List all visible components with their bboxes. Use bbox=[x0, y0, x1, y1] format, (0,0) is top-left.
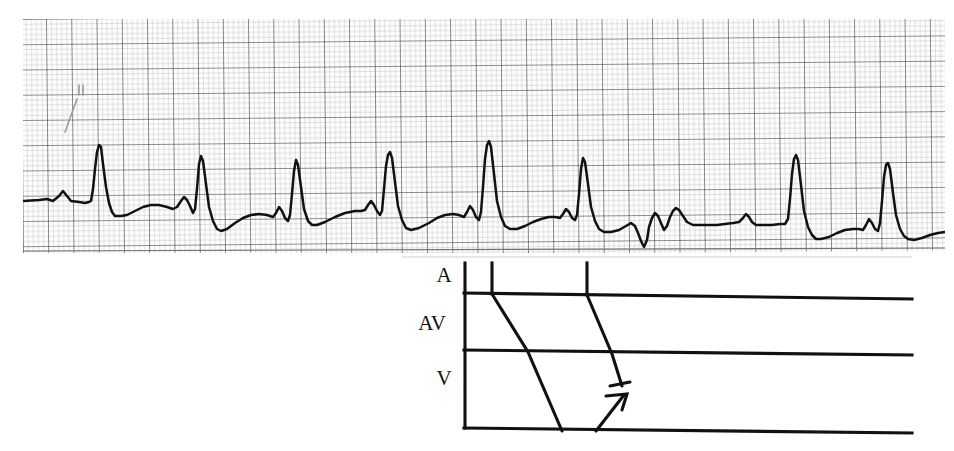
ecg-canvas bbox=[23, 19, 945, 253]
conduction-path-echo bbox=[596, 394, 627, 431]
ladder-canvas: A AV V bbox=[400, 255, 954, 445]
ecg-figure: A AV V bbox=[0, 0, 954, 451]
ladder-line-v-bottom bbox=[464, 428, 912, 433]
conduction-path-conducted bbox=[492, 294, 562, 431]
ladder-line-av-v bbox=[464, 350, 912, 355]
ladder-line-a-av bbox=[464, 293, 912, 299]
tier-label-v: V bbox=[436, 366, 451, 390]
blocked-slant bbox=[587, 295, 622, 386]
conduction-path-blocked bbox=[587, 295, 630, 386]
conducted-slant bbox=[492, 294, 562, 431]
ladder-diagram: A AV V bbox=[400, 255, 954, 445]
tier-label-a: A bbox=[436, 263, 452, 287]
block-bar bbox=[610, 382, 630, 386]
echo-slant bbox=[596, 395, 624, 431]
ecg-rhythm-strip bbox=[23, 19, 945, 253]
tier-label-av: AV bbox=[418, 311, 446, 335]
atrial-ticks-group bbox=[492, 263, 587, 295]
